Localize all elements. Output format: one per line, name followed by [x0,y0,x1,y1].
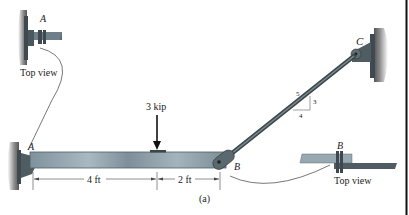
dim-4ft: 4 ft [87,174,101,185]
wall-c-support: C [351,28,388,82]
slope-hyp: 5 [296,90,300,98]
wall-icon [374,28,388,82]
load-label: 3 kip [146,101,166,112]
leader-curve-a [28,48,63,150]
figure-caption: (a) [199,193,210,205]
statics-diagram: A Top view C 5 3 4 A B [0,0,409,215]
top-view-label-b: Top view [334,175,372,186]
point-b-inset-label: B [337,140,343,151]
point-a-label: A [27,141,35,152]
leader-curve-b [230,165,330,183]
load-arrow: 3 kip [146,101,166,150]
inset-b-top-view: B Top view [300,140,397,186]
point-c-label: C [356,35,364,47]
slope-rise: 3 [313,98,317,106]
dim-2ft: 2 ft [178,174,192,185]
inset-a-top-view: A Top view [18,10,63,150]
dimension-lines: 4 ft 2 ft [33,172,220,190]
slope-run: 4 [299,112,303,120]
point-a-inset-label: A [39,13,47,24]
point-b-label: B [234,161,240,172]
load-plate [150,150,166,153]
rod-bc: 5 3 4 [226,56,354,158]
arrow-down-icon [153,141,161,150]
top-view-label-a: Top view [20,67,58,78]
